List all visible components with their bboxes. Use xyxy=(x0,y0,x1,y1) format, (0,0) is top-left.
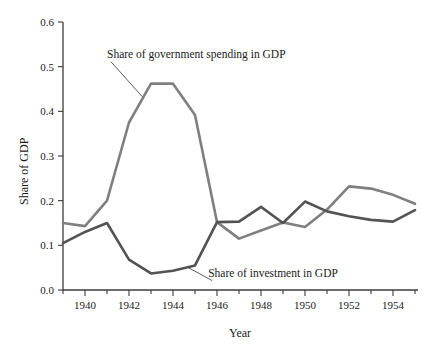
y-axis-ticks: 0.00.10.20.30.40.50.6 xyxy=(40,16,63,296)
annotation-leader-line xyxy=(111,62,142,97)
x-tick-label: 1950 xyxy=(294,299,317,311)
annotation-label: Share of investment in GDP xyxy=(208,267,338,279)
annotation-label: Share of government spending in GDP xyxy=(107,48,286,61)
x-tick-label: 1954 xyxy=(382,299,405,311)
x-tick-label: 1952 xyxy=(338,299,360,311)
y-tick-label: 0.6 xyxy=(40,16,54,28)
y-tick-label: 0.5 xyxy=(40,61,54,73)
y-axis-title: Share of GDP xyxy=(17,137,31,205)
x-tick-label: 1948 xyxy=(250,299,273,311)
x-axis-ticks: 19401942194419461948195019521954 xyxy=(63,290,415,311)
y-tick-label: 0.0 xyxy=(40,284,54,296)
series-lines xyxy=(63,84,415,274)
axis-spines xyxy=(63,22,418,290)
line-chart: Share of GDP Year 0.00.10.20.30.40.50.6 … xyxy=(0,0,437,349)
y-tick-label: 0.2 xyxy=(40,195,54,207)
y-tick-label: 0.1 xyxy=(40,239,54,251)
series-line-government-spending xyxy=(63,84,415,239)
x-tick-label: 1944 xyxy=(162,299,185,311)
x-tick-label: 1940 xyxy=(74,299,97,311)
x-axis-title: Year xyxy=(229,326,251,340)
series-annotations: Share of government spending in GDPShare… xyxy=(107,48,338,281)
x-tick-label: 1946 xyxy=(206,299,229,311)
x-tick-label: 1942 xyxy=(118,299,140,311)
y-tick-label: 0.4 xyxy=(40,105,54,117)
chart-figure: Share of GDP Year 0.00.10.20.30.40.50.6 … xyxy=(0,0,437,349)
y-tick-label: 0.3 xyxy=(40,150,54,162)
